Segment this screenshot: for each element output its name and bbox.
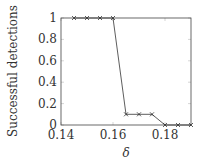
series-line bbox=[74, 18, 191, 125]
y-tick-label: 0.2 bbox=[38, 97, 57, 111]
x-tick-label: 0.16 bbox=[100, 128, 127, 142]
y-tick-labels: 00.20.40.60.81 bbox=[38, 11, 57, 132]
x-axis-label: δ bbox=[122, 146, 129, 160]
y-tick-label: 1 bbox=[49, 11, 57, 25]
chart: 00.20.40.60.81 0.140.160.18 δ Successful… bbox=[0, 0, 202, 168]
y-tick-label: 0.4 bbox=[38, 75, 57, 89]
y-axis-label: Successful detections bbox=[6, 5, 20, 137]
y-tick-label: 0.6 bbox=[38, 54, 57, 68]
x-tick-labels: 0.140.160.18 bbox=[48, 128, 179, 142]
x-tick-label: 0.18 bbox=[152, 128, 179, 142]
y-tick-label: 0.8 bbox=[38, 32, 57, 46]
axis-ticks bbox=[61, 18, 191, 125]
plot-frame bbox=[61, 18, 191, 125]
x-tick-label: 0.14 bbox=[48, 128, 75, 142]
series-markers bbox=[72, 16, 193, 127]
